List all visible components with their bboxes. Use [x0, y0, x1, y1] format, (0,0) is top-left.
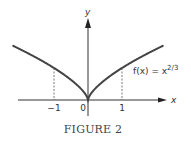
x-tick-labels: −101	[47, 103, 125, 113]
function-label: f(x) = x2/3	[133, 64, 178, 76]
x-axis-arrow-icon	[158, 98, 167, 103]
x-axis-label: x	[170, 95, 177, 105]
y-axis-label: y	[84, 7, 91, 17]
x-tick-label: 0	[80, 103, 86, 113]
figure-caption: FIGURE 2	[64, 123, 122, 136]
function-label-exponent: 2/3	[167, 64, 178, 72]
x-tick-label: 1	[119, 103, 125, 113]
x-tick-label: −1	[47, 103, 60, 113]
figure-2-graph: x y −101 f(x) = x2/3 FIGURE 2	[0, 0, 191, 144]
y-axis-arrow-icon	[85, 18, 91, 28]
function-label-lhs: f(x) = x	[133, 66, 168, 76]
